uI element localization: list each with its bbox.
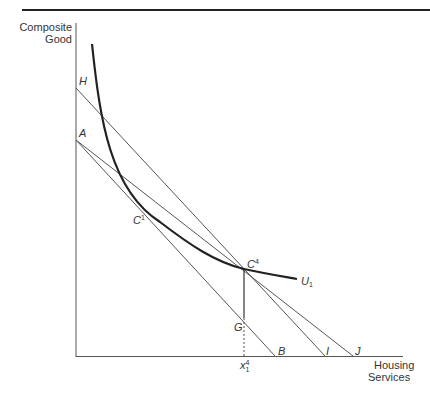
y-axis-label-line1: Composite — [19, 21, 72, 33]
label-U1: U1 — [301, 275, 313, 288]
label-G: G — [234, 321, 243, 333]
x-axis-label-line2: Services — [368, 371, 411, 383]
x-axis-label-line1: Housing — [374, 359, 414, 371]
y-axis-label-line2: Good — [45, 33, 72, 45]
label-H: H — [79, 75, 87, 87]
label-I: I — [326, 345, 329, 357]
label-J: J — [354, 345, 361, 357]
label-A: A — [78, 127, 86, 139]
label-B: B — [278, 345, 285, 357]
label-x: x41 — [239, 359, 250, 373]
label-C1: C1 — [133, 214, 145, 226]
diagram-canvas: Composite Good Housing Services H A B I … — [0, 0, 430, 402]
budget-line-AJ — [76, 140, 353, 356]
budget-line-HI — [76, 88, 325, 356]
budget-line-AB — [76, 140, 275, 356]
label-C4: C4 — [247, 258, 259, 270]
indifference-curve-U1 — [92, 44, 297, 279]
